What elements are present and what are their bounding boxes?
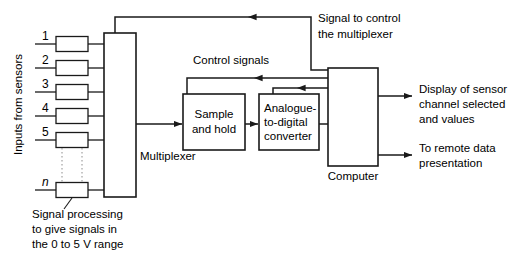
signal-processing-caption-line2: to give signals in xyxy=(32,223,117,235)
adc-label-line2: to-digital xyxy=(264,116,307,128)
channel-label-5: 5 xyxy=(42,125,49,139)
channel-label-2: 2 xyxy=(42,53,49,67)
channel-label-4: 4 xyxy=(42,101,49,115)
sample-and-hold-block xyxy=(183,94,245,150)
multiplexer-label: Multiplexer xyxy=(140,150,196,162)
sample-and-hold-label-line1: Sample xyxy=(195,108,234,120)
signal-to-control-annotation-line1: Signal to control xyxy=(318,12,400,24)
multiplexer-block xyxy=(104,33,136,197)
output-remote-line1: To remote data xyxy=(419,142,496,154)
adc-label-line1: Analogue- xyxy=(264,102,317,114)
channel-label-n: n xyxy=(42,175,49,189)
computer-block xyxy=(328,68,378,166)
control-adc-arrowhead xyxy=(297,85,306,91)
output-display-line1: Display of sensor xyxy=(419,83,507,95)
block-diagram: Inputs from sensors 1 2 3 4 5 n Multiple… xyxy=(0,0,526,259)
sample-and-hold-label-line2: and hold xyxy=(192,123,236,135)
computer-label: Computer xyxy=(328,170,379,182)
signal-processing-caption-line1: Signal processing xyxy=(32,208,123,220)
control-sample-arrowhead xyxy=(254,75,263,81)
control-to-sample-wire xyxy=(187,78,328,94)
output-remote-line2: presentation xyxy=(419,157,482,169)
output-display-line2: channel selected xyxy=(419,98,505,110)
mux-control-arrowhead xyxy=(248,14,257,20)
diagram-canvas: Inputs from sensors 1 2 3 4 5 n Multiple… xyxy=(0,0,526,259)
signal-processing-caption-line3: the 0 to 5 V range xyxy=(32,238,123,250)
output-display-line3: and values xyxy=(419,113,475,125)
adc-label-line3: converter xyxy=(264,130,312,142)
inputs-from-sensors-label: Inputs from sensors xyxy=(12,54,24,155)
control-signals-annotation: Control signals xyxy=(193,54,269,66)
channel-label-1: 1 xyxy=(42,29,49,43)
channel-label-3: 3 xyxy=(42,77,49,91)
signal-to-control-annotation-line2: the multiplexer xyxy=(318,28,393,40)
